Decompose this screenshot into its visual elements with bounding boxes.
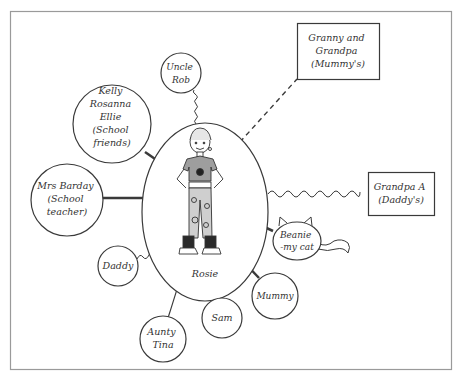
node-mrs-barday: Mrs Barday (School teacher) (31, 164, 103, 236)
node-granny-grandpa: Granny and Grandpa (Mummy's) (298, 24, 380, 80)
svg-text:Granny and Grandpa: Granny and Grandpa (Mummy's) (308, 32, 367, 69)
node-daddy: Daddy (98, 246, 138, 286)
node-sam: Sam (202, 298, 242, 338)
node-uncle-rob: Uncle Rob (161, 53, 201, 93)
svg-text:Sam: Sam (211, 312, 232, 323)
centre-label: Rosie (191, 268, 219, 279)
node-grandpa-a: Grandpa A (Daddy's) (369, 173, 435, 216)
node-aunty-tina: Aunty Tina (140, 316, 186, 362)
svg-text:Mummy: Mummy (255, 291, 294, 301)
node-school-friends: Kelly Rosanna Ellie (School friends) (73, 85, 151, 163)
node-mummy: Mummy (252, 273, 298, 319)
relationship-diagram: Rosie Uncle Rob Kelly Rosanna Ellie (Sch… (0, 0, 463, 377)
svg-text:Daddy: Daddy (102, 260, 134, 271)
